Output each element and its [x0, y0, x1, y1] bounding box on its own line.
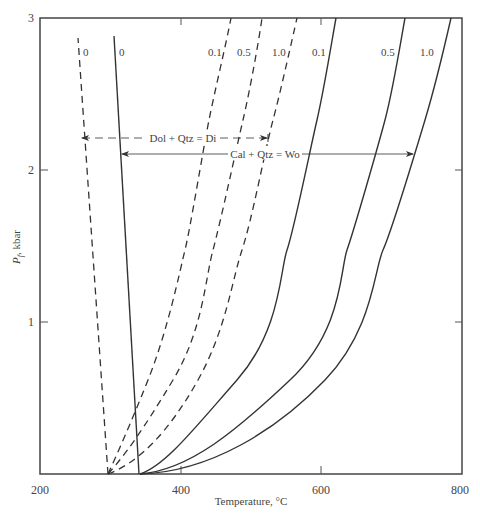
curve-label-dashed-1.0: 1.0 [272, 46, 286, 58]
annotation-label-cal: Cal + Qtz = Wo [230, 148, 300, 160]
x-tick-label: 600 [312, 483, 330, 497]
curve-label-dashed-0: 0 [83, 46, 89, 58]
x-tick-label: 800 [451, 483, 469, 497]
curve-solid-1.0 [140, 18, 451, 474]
curve-dashed-1.0 [108, 18, 297, 474]
phase-diagram: 200 400 600 800 1 2 3 Temperature, °C Pf… [0, 0, 480, 517]
y-tick-label: 2 [28, 163, 34, 177]
curve-dashed-0 [78, 38, 108, 474]
curve-label-solid-1.0: 1.0 [420, 46, 434, 58]
annotation-cal-qtz-wo: Cal + Qtz = Wo [122, 146, 413, 160]
curve-dashed-0.5 [108, 18, 262, 474]
curve-solid-0 [114, 36, 139, 474]
curve-label-dashed-0.1: 0.1 [208, 46, 222, 58]
curve-label-solid-0.1: 0.1 [312, 46, 326, 58]
curve-label-solid-0: 0 [119, 46, 125, 58]
dashed-curves [78, 18, 297, 474]
x-axis-title: Temperature, °C [215, 495, 288, 507]
x-tick-label: 400 [172, 483, 190, 497]
plot-frame [40, 18, 462, 474]
curve-label-dashed-0.5: 0.5 [237, 46, 251, 58]
curve-solid-0.1 [140, 18, 336, 474]
y-ticks [40, 170, 462, 322]
y-tick-label: 3 [28, 11, 34, 25]
solid-curves [114, 18, 451, 474]
x-tick-label: 200 [31, 483, 49, 497]
curve-solid-0.5 [140, 18, 405, 474]
y-axis-title: Pf, kbar [10, 230, 25, 265]
y-tick-label: 1 [28, 315, 34, 329]
curve-label-solid-0.5: 0.5 [381, 46, 395, 58]
x-ticks [181, 18, 321, 474]
annotation-label-dol: Dol + Qtz = Di [150, 132, 217, 144]
